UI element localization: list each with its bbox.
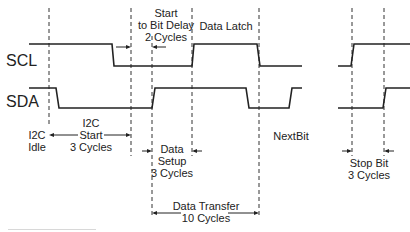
- start-to-bit-delay-arrows: [116, 45, 166, 49]
- next-bit-label: NextBit: [268, 130, 314, 142]
- start-to-bit-delay-label: Start to Bit Delay 2 Cycles: [126, 7, 206, 43]
- sda-waveform-stop: [338, 88, 410, 108]
- i2c-start-label: I2C Start 3 Cycles: [60, 117, 122, 153]
- sda-waveform: [29, 88, 302, 108]
- stop-bit-arrows: [342, 149, 394, 153]
- scl-waveform-stop: [338, 44, 410, 66]
- dashed-markers: [49, 8, 384, 218]
- bottom-rule: [8, 229, 96, 230]
- data-latch-label: Data Latch: [196, 20, 256, 32]
- data-setup-label: Data Setup 3 Cycles: [150, 143, 194, 179]
- stop-bit-label: Stop Bit 3 Cycles: [344, 157, 394, 181]
- data-transfer-label: Data Transfer 10 Cycles: [170, 200, 242, 224]
- sda-label: SDA: [6, 93, 39, 111]
- scl-label: SCL: [6, 52, 37, 70]
